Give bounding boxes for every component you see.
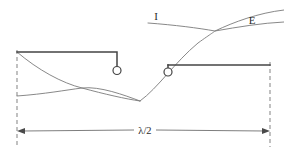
dimension-line-left bbox=[22, 130, 134, 131]
dimension-line-right bbox=[156, 130, 265, 131]
voltage-curve-left-segment bbox=[17, 52, 140, 101]
antenna-diagram-canvas: I E λ/2 bbox=[0, 0, 284, 158]
antenna-diagram: I E λ/2 bbox=[0, 0, 284, 158]
dimension-arrow-right-icon bbox=[262, 128, 270, 134]
left-feed-terminal bbox=[113, 67, 121, 75]
dimension-arrow-left-icon bbox=[17, 128, 25, 134]
voltage-label: E bbox=[249, 14, 256, 26]
current-label: I bbox=[154, 10, 158, 22]
right-feed-terminal bbox=[164, 68, 172, 76]
current-curve-left-segment bbox=[17, 88, 140, 101]
current-curve-upper-segment bbox=[148, 22, 284, 31]
dimension-label: λ/2 bbox=[138, 125, 151, 136]
